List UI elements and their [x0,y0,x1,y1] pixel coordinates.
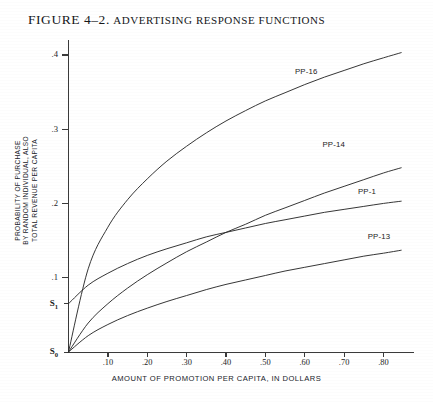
y-axis-title: PROBABILITY OF PURCHASE BY RANDOM INDIVI… [14,80,39,300]
figure-container: FIGURE 4–2. ADVERTISING RESPONSE FUNCTIO… [0,0,433,402]
x-axis-title: AMOUNT OF PROMOTION PER CAPITA, IN DOLLA… [0,374,433,383]
curve-pp-16 [69,53,402,352]
curve-pp-14 [69,168,402,352]
y-axis-title-line-2: BY RANDOM INDIVIDUAL, ALSO [22,80,30,300]
curve-pp-1 [69,201,402,304]
y-axis-title-line-3: TOTAL REVENUE PER CAPITA [30,80,38,300]
curve-pp-13 [69,250,402,352]
y-axis-title-line-1: PROBABILITY OF PURCHASE [14,80,22,300]
response-curves [0,0,433,402]
